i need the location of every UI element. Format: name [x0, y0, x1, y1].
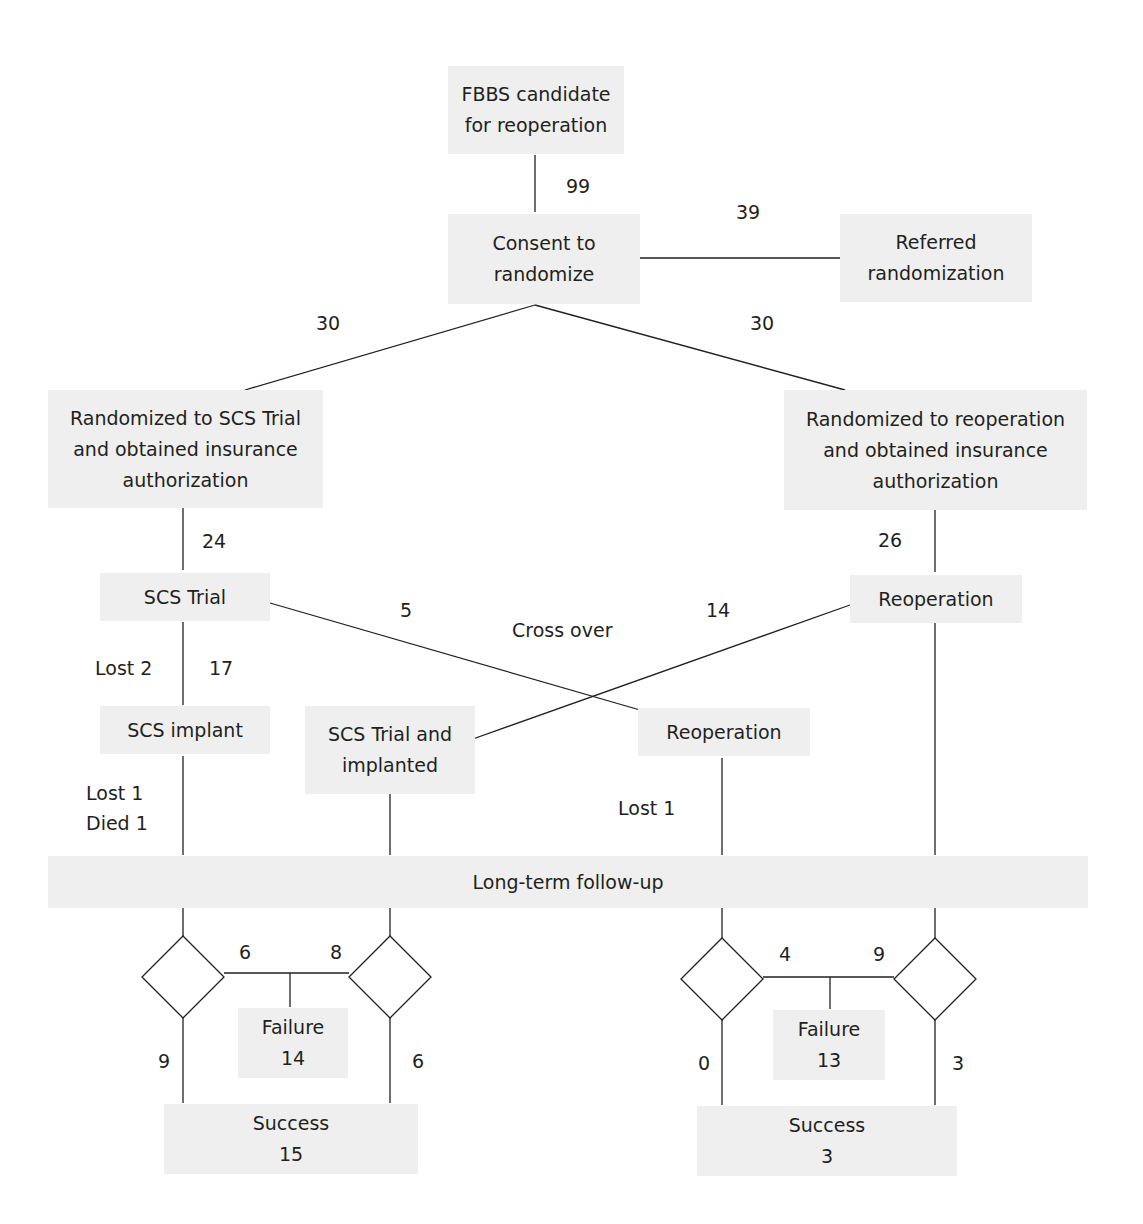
node-randomized-reoperation: Randomized to reoperation and obtained i… [784, 390, 1087, 510]
node-success-right: Success 3 [697, 1106, 957, 1176]
decision-diamond-left-2 [349, 936, 431, 1018]
label-26: 26 [878, 528, 902, 552]
flow-diagram: FBBS candidate for reoperation Consent t… [0, 0, 1143, 1224]
node-scs-trial-implanted: SCS Trial and implanted [305, 706, 475, 794]
label-right-0-success: 0 [698, 1051, 710, 1075]
label-14: 14 [706, 598, 730, 622]
label-lost-1-left: Lost 1 [86, 781, 143, 805]
node-referred-randomization: Referred randomization [840, 214, 1032, 302]
label-99: 99 [566, 174, 590, 198]
node-reoperation-crossover: Reoperation [638, 708, 810, 756]
node-consent-to-randomize: Consent to randomize [448, 214, 640, 304]
decision-diamond-left-1 [142, 936, 224, 1018]
label-24: 24 [202, 529, 226, 553]
label-right-9-fail: 9 [873, 942, 885, 966]
node-failure-left: Failure 14 [238, 1008, 348, 1078]
label-left-8-fail: 8 [330, 940, 342, 964]
node-scs-trial: SCS Trial [100, 573, 270, 621]
label-lost-2: Lost 2 [95, 656, 152, 680]
label-39: 39 [736, 200, 760, 224]
label-5: 5 [400, 598, 412, 622]
label-died-1: Died 1 [86, 811, 148, 835]
node-failure-right: Failure 13 [773, 1010, 885, 1080]
label-30-left: 30 [316, 311, 340, 335]
label-left-9-success: 9 [158, 1049, 170, 1073]
decision-diamond-right-1 [681, 938, 763, 1020]
label-cross-over: Cross over [512, 618, 613, 642]
node-fbbs-candidate: FBBS candidate for reoperation [448, 66, 624, 154]
label-30-right: 30 [750, 311, 774, 335]
node-scs-implant: SCS implant [100, 706, 270, 754]
label-right-4-fail: 4 [779, 942, 791, 966]
node-randomized-scs: Randomized to SCS Trial and obtained ins… [48, 390, 323, 508]
decision-diamond-right-2 [894, 938, 976, 1020]
label-17: 17 [209, 656, 233, 680]
label-left-6-fail: 6 [239, 940, 251, 964]
label-left-6-success: 6 [412, 1049, 424, 1073]
label-right-3-success: 3 [952, 1051, 964, 1075]
node-success-left: Success 15 [164, 1104, 418, 1174]
node-long-term-followup: Long-term follow-up [48, 856, 1088, 908]
node-reoperation-right: Reoperation [850, 575, 1022, 623]
label-lost-1-right: Lost 1 [618, 796, 675, 820]
